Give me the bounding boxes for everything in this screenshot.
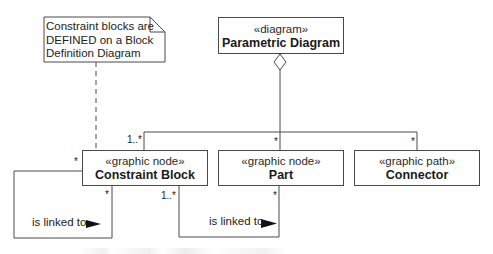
- self-link-direction-icon: [86, 220, 101, 228]
- node-name: Connector: [355, 168, 479, 183]
- node-stereotype: «graphic node»: [83, 155, 207, 168]
- node-name: Part: [219, 168, 343, 183]
- part-link-direction-icon: [261, 219, 277, 228]
- part-node[interactable]: «graphic node» Part: [218, 150, 344, 186]
- part-link-path: [179, 185, 279, 237]
- multiplicity-constraint-block-left: *: [74, 156, 78, 167]
- part-link-label: is linked to: [209, 215, 263, 227]
- node-stereotype: «diagram»: [219, 23, 343, 36]
- note-line-1: Constraint blocks are: [46, 20, 154, 34]
- node-name: Constraint Block: [83, 168, 207, 183]
- multiplicity-constraint-block-bottom-right: 1..*: [161, 190, 176, 201]
- parametric-diagram-node[interactable]: «diagram» Parametric Diagram: [218, 17, 344, 54]
- multiplicity-constraint-block-top: 1..*: [127, 134, 142, 145]
- node-stereotype: «graphic path»: [355, 155, 479, 168]
- node-name: Parametric Diagram: [219, 36, 343, 51]
- connector-node[interactable]: «graphic path» Connector: [354, 150, 480, 186]
- multiplicity-connector-top: *: [411, 136, 415, 147]
- multiplicity-constraint-block-bottom-left: *: [105, 189, 109, 200]
- node-stereotype: «graphic node»: [219, 155, 343, 168]
- note-text: Constraint blocks are DEFINED on a Block…: [46, 20, 154, 61]
- self-link-label: is linked to: [32, 216, 86, 228]
- constraint-block-node[interactable]: «graphic node» Constraint Block: [82, 150, 208, 186]
- aggregation-diamond-icon: [274, 54, 286, 70]
- multiplicity-part-bottom: *: [273, 190, 277, 201]
- note-line-2: DEFINED on a Block: [46, 34, 154, 48]
- note-line-3: Definition Diagram: [46, 47, 154, 61]
- multiplicity-part-top: *: [274, 136, 278, 147]
- bottom-faint-text: [80, 248, 310, 254]
